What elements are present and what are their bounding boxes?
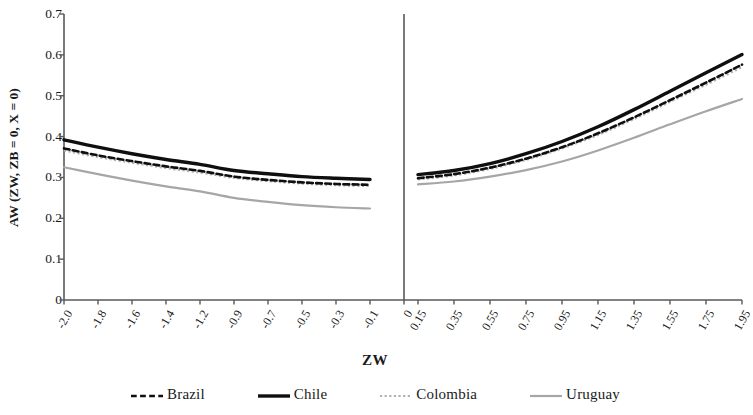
series-line-colombia: [418, 67, 742, 179]
legend-swatch-chile-icon: [257, 389, 291, 401]
legend-item-brazil[interactable]: Brazil: [130, 386, 205, 403]
legend-swatch-brazil-icon: [130, 389, 164, 401]
chart-legend: BrazilChileColombiaUruguay: [0, 386, 750, 403]
legend-label: Uruguay: [566, 386, 620, 403]
legend-item-uruguay[interactable]: Uruguay: [529, 386, 620, 403]
legend-item-chile[interactable]: Chile: [257, 386, 328, 403]
legend-label: Chile: [294, 386, 328, 403]
series-line-brazil: [418, 65, 742, 179]
legend-label: Brazil: [167, 386, 205, 403]
legend-swatch-colombia-icon: [379, 389, 413, 401]
legend-swatch-uruguay-icon: [529, 389, 563, 401]
legend-item-colombia[interactable]: Colombia: [379, 386, 477, 403]
legend-label: Colombia: [416, 386, 477, 403]
x-axis-title: ZW: [0, 352, 750, 369]
